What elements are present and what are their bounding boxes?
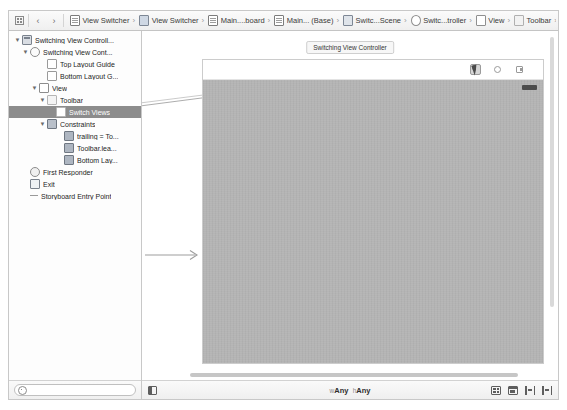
forward-button[interactable]: › [46,13,62,28]
disclosure-triangle-icon[interactable]: ▼ [13,37,22,43]
size-class-height-label: h [353,387,357,394]
outline-row-switch-views[interactable]: Switch Views [9,106,141,118]
disclosure-triangle-icon[interactable]: ▼ [21,49,30,55]
chevron-right-icon: › [202,16,205,25]
chevron-right-icon: › [469,16,472,25]
breadcrumb-item-view[interactable]: View › [473,13,511,28]
chevron-right-icon: › [132,16,135,25]
outline-row-label: Switching View Controll... [35,37,114,44]
breadcrumb-item-storyboard[interactable]: Main....board › [205,13,271,28]
root-view[interactable] [203,80,543,363]
breadcrumb-label: View Switcher [83,16,130,25]
chevron-right-icon: › [404,16,407,25]
third-bar-button[interactable] [514,64,525,75]
outline-row-label: Switch Views [69,109,110,116]
breadcrumb-label: Toolbar [527,16,552,25]
second-bar-button[interactable] [492,64,503,75]
entry-point-icon [30,195,38,200]
outline-row-label: trailing = To... [77,133,119,140]
status-badge [522,85,537,90]
outline-row-top-layout-guide[interactable]: Top Layout Guide [9,58,141,70]
outline-row-label: Toolbar.lea... [77,145,117,152]
editor-body: ▼ Switching View Controll... ▼ Switching… [9,31,558,399]
outline-row-constraint-trailing[interactable]: trailing = To... [9,130,141,142]
outline-row-constraints[interactable]: ▼ Constraints [9,118,141,130]
scene-icon [343,15,353,26]
resizing-behavior-icon[interactable] [542,386,552,395]
outline-row-toolbar[interactable]: ▼ Toolbar [9,94,141,106]
outline-row-storyboard-entry-point[interactable]: Storyboard Entry Point [9,190,141,202]
outline-row-label: Exit [43,181,55,188]
outline-row-label: Toolbar [60,97,83,104]
outline-row-label: View [52,85,67,92]
breadcrumb-label: View [488,16,504,25]
view-icon [39,83,49,93]
canvas-horizontal-scrollbar[interactable] [190,373,518,377]
jump-bar: ‹ › View Switcher › View Switcher › Main… [9,11,558,31]
breadcrumb-item-base[interactable]: Main... (Base) › [271,13,340,28]
constraint-icon [64,131,74,141]
chevron-right-icon: › [268,16,271,25]
gear-icon [494,66,501,73]
layout-guide-icon [47,59,57,69]
toolbar[interactable] [203,60,543,80]
outline-row-first-responder[interactable]: First Responder [9,166,141,178]
outline-row-label: Bottom Layout G... [60,73,118,80]
outline-tree: ▼ Switching View Controll... ▼ Switching… [9,31,141,380]
filter-input[interactable] [14,384,136,396]
document-outline-toggle-icon[interactable] [148,386,157,395]
first-responder-icon [30,167,40,177]
outline-row-exit[interactable]: Exit [9,178,141,190]
size-class-height-value: Any [356,386,370,395]
size-class-width-value: Any [334,386,348,395]
constraint-icon [64,143,74,153]
resolve-auto-layout-icon[interactable] [525,386,535,395]
breadcrumb-label: Main....board [221,16,265,25]
related-items-button[interactable] [11,13,27,28]
breadcrumb-item-group[interactable]: View Switcher › [136,13,205,28]
back-button[interactable]: ‹ [30,13,46,28]
chevron-right-icon: › [507,16,510,25]
outline-footer [9,380,141,399]
outline-row-constraint-leading[interactable]: Toolbar.lea... [9,142,141,154]
divider [28,14,29,27]
divider [63,14,64,27]
breadcrumb-item-toolbar[interactable]: Toolbar › [511,13,556,28]
outline-row-constraint-bottom[interactable]: Bottom Lay... [9,154,141,166]
outline-row-label: Storyboard Entry Point [41,193,111,200]
breadcrumb-item-project[interactable]: View Switcher › [67,13,136,28]
grid-icon [15,16,24,25]
disclosure-triangle-icon[interactable]: ▼ [30,85,39,91]
outline-row-switching-view-controller[interactable]: ▼ Switching View Cont... [9,46,141,58]
switch-views-bar-button[interactable] [470,64,481,75]
align-icon[interactable] [491,386,501,395]
breadcrumb-item-scene[interactable]: Switc...Scene › [340,13,408,28]
search-icon [18,386,27,395]
outline-row-label: Switching View Cont... [43,49,113,56]
outline-row-view[interactable]: ▼ View [9,82,141,94]
disclosure-triangle-icon[interactable]: ▼ [38,121,47,127]
exit-icon [30,179,40,189]
toolbar-icon [47,95,57,105]
outline-row-bottom-layout-guide[interactable]: Bottom Layout G... [9,70,141,82]
canvas-pane: Switching View Controller [142,31,558,399]
document-icon [208,15,218,26]
outline-row-switching-view-controller-scene[interactable]: ▼ Switching View Controll... [9,34,141,46]
view-icon [476,15,486,26]
document-icon [274,15,284,26]
pin-icon[interactable] [508,386,518,395]
outline-row-label: Constraints [60,121,95,128]
interface-builder-canvas[interactable]: Switching View Controller [142,31,558,380]
scene-title-label: Switching View Controller [306,41,394,54]
constraint-icon [64,155,74,165]
disclosure-triangle-icon[interactable]: ▼ [38,97,47,103]
cursor-icon [472,64,480,75]
chevron-right-icon: › [336,16,339,25]
breadcrumb-item-view-controller[interactable]: Switc...troller › [408,13,473,28]
layout-guide-icon [47,71,57,81]
view-controller-canvas[interactable] [202,59,544,364]
canvas-vertical-scrollbar[interactable] [550,37,554,307]
toolbar-icon [514,15,524,26]
breadcrumb-label: Main... (Base) [287,16,334,25]
bar-button-item-icon [56,107,66,117]
